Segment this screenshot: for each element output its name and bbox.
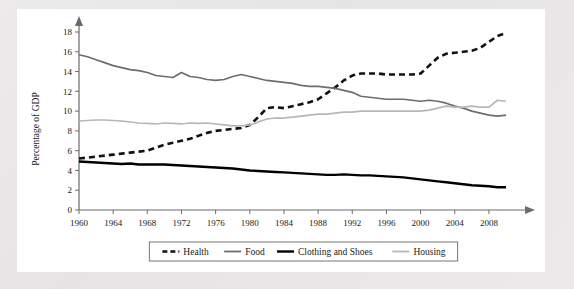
figure-panel: Percentage of GDP 024681012141618 196019… [17,9,545,272]
y-tick-label: 8 [68,126,73,136]
screenshot-root: Percentage of GDP 024681012141618 196019… [0,0,574,289]
x-tick-label: 2008 [480,218,499,228]
legend-label-clothing-and-shoes: Clothing and Shoes [298,247,373,257]
line-chart: Percentage of GDP 024681012141618 196019… [17,9,545,272]
y-tick-label: 2 [68,185,73,195]
y-tick-label: 0 [68,205,73,215]
series-line-health [79,33,506,159]
series-group [79,33,506,187]
legend-label-housing: Housing [413,247,445,257]
chart-legend: HealthFoodClothing and ShoesHousing [149,242,457,261]
x-tick-label: 1972 [172,218,190,228]
y-tick-label: 12 [63,87,72,97]
y-tick-label: 4 [68,166,73,176]
y-tick-label: 18 [63,27,73,37]
y-tick-label: 6 [68,146,73,156]
x-axis-ticks: 1960196419681972197619801984198819921996… [70,210,498,228]
y-tick-label: 10 [63,106,73,116]
x-tick-label: 2000 [412,218,431,228]
legend-label-health: Health [183,247,209,257]
series-line-housing [79,100,506,126]
x-tick-label: 1976 [207,218,226,228]
y-tick-label: 16 [63,47,73,57]
x-tick-label: 1980 [241,218,259,228]
x-tick-label: 1968 [138,218,157,228]
x-tick-label: 1964 [104,218,123,228]
y-axis-ticks: 024681012141618 [63,27,79,215]
y-axis-arrowhead [75,16,83,26]
y-axis-label-group: Percentage of GDP [31,92,41,165]
legend-label-food: Food [245,247,265,257]
x-tick-label: 2004 [446,218,465,228]
x-tick-label: 1960 [70,218,89,228]
series-line-clothing-and-shoes [79,162,506,188]
y-axis-label: Percentage of GDP [31,92,41,165]
x-tick-label: 1988 [309,218,328,228]
x-tick-label: 1992 [343,218,361,228]
x-axis-arrowhead [525,206,535,214]
x-tick-label: 1996 [377,218,396,228]
y-tick-label: 14 [63,67,73,77]
x-tick-label: 1984 [275,218,294,228]
